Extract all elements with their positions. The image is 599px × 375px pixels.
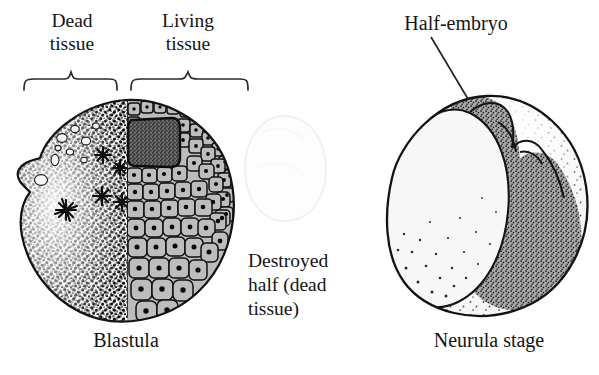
blastocoel-cavity	[128, 118, 180, 167]
destroyed-half-ghost	[245, 116, 326, 221]
brace-dead-tissue	[24, 72, 117, 90]
neurula-drawing	[380, 88, 599, 323]
label-half-embryo: Half-embryo	[356, 12, 556, 35]
blastula-drawing	[0, 90, 260, 340]
braces	[24, 72, 248, 90]
caption-neurula-stage: Neurula stage	[396, 329, 582, 352]
figure-half-embryo-experiment: Dead tissue Living tissue Half-embryo De…	[0, 0, 599, 375]
label-dead-tissue: Dead tissue	[8, 10, 136, 55]
blastula-dead-half	[0, 90, 260, 340]
brace-living-tissue	[131, 72, 248, 90]
label-destroyed-half: Destroyed half (dead tissue)	[248, 249, 374, 320]
half-embryo-leader-line	[431, 37, 468, 99]
label-living-tissue: Living tissue	[124, 10, 252, 55]
caption-blastula: Blastula	[56, 329, 196, 352]
